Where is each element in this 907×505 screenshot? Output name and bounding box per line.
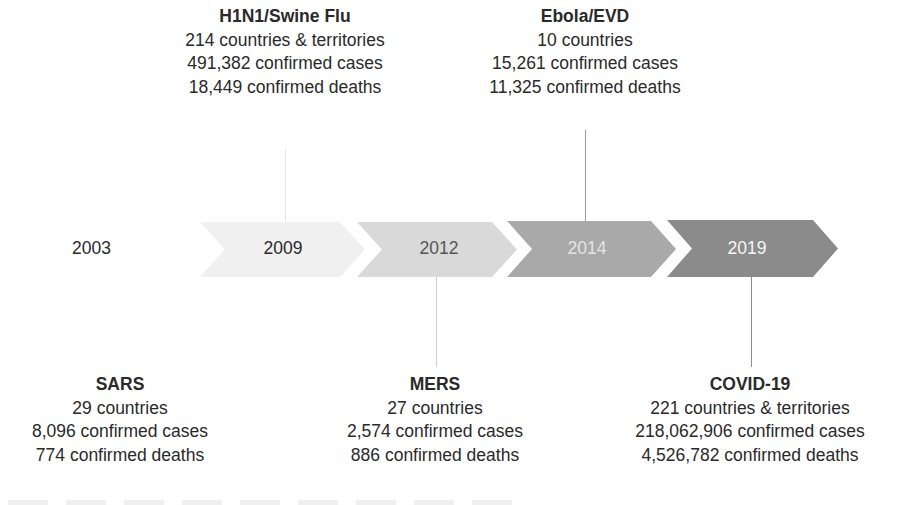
event-title: COVID-19 xyxy=(610,373,890,397)
event-deaths: 886 confirmed deaths xyxy=(310,444,560,468)
event-countries: 29 countries xyxy=(0,397,240,421)
chevron-label-2009: 2009 xyxy=(233,238,333,259)
event-covid: COVID-19 221 countries & territories 218… xyxy=(610,373,890,467)
event-deaths: 774 confirmed deaths xyxy=(0,444,240,468)
event-sars: SARS 29 countries 8,096 confirmed cases … xyxy=(0,373,240,467)
event-cases: 2,574 confirmed cases xyxy=(310,420,560,444)
figure-caption-cutoff xyxy=(8,500,528,505)
chevron-label-2014: 2014 xyxy=(537,238,637,259)
event-cases: 8,096 confirmed cases xyxy=(0,420,240,444)
chevron-label-2012: 2012 xyxy=(389,238,489,259)
chevron-label-2019: 2019 xyxy=(697,238,797,259)
event-title: MERS xyxy=(310,373,560,397)
event-title: SARS xyxy=(0,373,240,397)
event-countries: 27 countries xyxy=(310,397,560,421)
event-deaths: 4,526,782 confirmed deaths xyxy=(610,444,890,468)
event-cases: 218,062,906 confirmed cases xyxy=(610,420,890,444)
event-countries: 221 countries & territories xyxy=(610,397,890,421)
event-mers: MERS 27 countries 2,574 confirmed cases … xyxy=(310,373,560,467)
